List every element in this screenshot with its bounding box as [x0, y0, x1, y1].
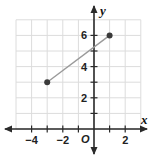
y-axis-label: y	[98, 3, 106, 18]
y-tick-label: 4	[81, 61, 88, 73]
origin-label: O	[81, 133, 90, 145]
axes	[4, 5, 148, 155]
y-axis-up-arrow-icon	[91, 5, 98, 13]
x-tick-label: 2	[122, 134, 128, 146]
y-tick-label: 2	[81, 92, 87, 104]
y-axis-down-arrow-icon	[91, 147, 98, 155]
data-point	[107, 32, 113, 38]
x-axis-label: x	[140, 112, 148, 127]
grid-lines	[16, 20, 141, 129]
x-tick-label: −4	[25, 134, 38, 146]
y-tick-label: 6	[81, 29, 87, 41]
data-point	[44, 79, 50, 85]
x-axis-left-arrow-icon	[4, 126, 12, 133]
x-tick-label: −2	[57, 134, 70, 146]
coordinate-plane: −4−22246 x y O	[0, 0, 151, 158]
